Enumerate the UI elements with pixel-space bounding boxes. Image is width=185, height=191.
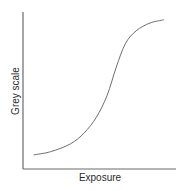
data-line — [34, 20, 164, 155]
x-axis-label: Exposure — [0, 172, 185, 183]
chart-canvas — [0, 0, 185, 191]
y-axis-label: Grey scale — [10, 67, 21, 115]
